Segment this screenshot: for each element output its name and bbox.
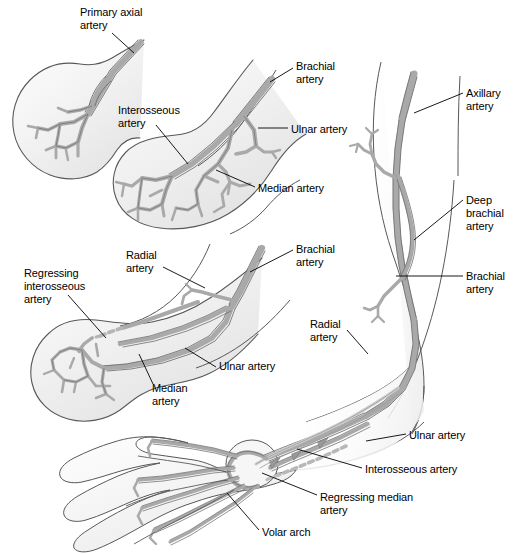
leader-radial-artery-stage3	[163, 267, 205, 288]
panel-stage-2-bud	[113, 60, 306, 234]
label-brachial-artery-arm: Brachial artery	[466, 270, 505, 296]
leader-axillary-artery	[414, 93, 463, 113]
label-brachial-artery-stage3: Brachial artery	[296, 243, 335, 269]
label-volar-arch: Volar arch	[262, 526, 311, 539]
brachial-lower-branch	[378, 278, 402, 306]
label-regressing-interosseous-artery: Regressing interosseous artery	[24, 267, 85, 307]
leader-primary-axial-artery	[112, 33, 134, 53]
label-interosseous-artery-bud: Interosseous artery	[118, 104, 180, 130]
label-radial-artery-arm: Radial artery	[310, 318, 341, 344]
label-ulnar-artery-stage3: Ulnar artery	[219, 360, 275, 373]
digital-artery-thumb	[152, 441, 236, 456]
anatomy-figure: Primary axial artery Interosseous artery…	[0, 0, 521, 554]
label-primary-axial-artery: Primary axial artery	[80, 6, 142, 32]
label-interosseous-artery-arm: Interosseous artery	[365, 463, 457, 476]
label-axillary-artery: Axillary artery	[466, 87, 501, 113]
label-deep-brachial-artery: Deep brachial artery	[466, 194, 504, 234]
label-ulnar-artery-bud: Ulnar artery	[291, 123, 347, 136]
label-regressing-median-artery: Regressing median artery	[320, 491, 413, 517]
label-median-artery-stage3: Median artery	[152, 382, 187, 408]
leader-deep-brachial-artery	[414, 200, 463, 240]
leader-radial-artery-arm	[347, 330, 368, 354]
label-ulnar-artery-arm: Ulnar artery	[409, 429, 465, 442]
label-brachial-artery-bud: Brachial artery	[296, 60, 335, 86]
arm-outline-medial	[458, 76, 460, 176]
label-median-artery-bud: Median artery	[258, 182, 324, 195]
label-radial-artery-stage3: Radial artery	[126, 249, 157, 275]
limb-bud-outline-2	[113, 60, 306, 229]
